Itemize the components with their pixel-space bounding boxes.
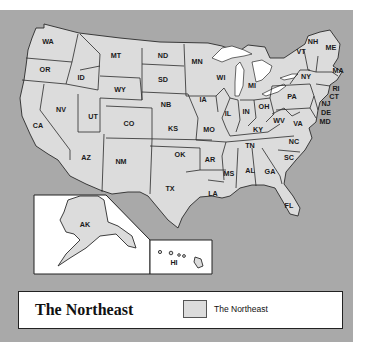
state-label-ks: KS xyxy=(168,124,178,133)
hawaii-inset xyxy=(150,240,212,274)
state-label-ia: IA xyxy=(199,95,206,104)
state-label-va: VA xyxy=(293,119,302,128)
state-label-ct: CT xyxy=(329,92,339,101)
state-label-mo: MO xyxy=(203,125,215,134)
state-label-or: OR xyxy=(40,65,52,74)
state-label-pa: PA xyxy=(287,92,296,101)
state-label-in: IN xyxy=(242,107,249,116)
alaska-inset xyxy=(34,195,150,274)
state-label-la: LA xyxy=(208,189,218,198)
state-label-ca: CA xyxy=(33,121,43,130)
state-label-id: ID xyxy=(77,73,84,82)
state-label-wv: WV xyxy=(273,116,285,125)
state-label-ok: OK xyxy=(175,150,187,159)
legend-title: The Northeast xyxy=(35,301,133,319)
state-label-ak: AK xyxy=(80,220,91,229)
state-label-fl: FL xyxy=(285,201,294,210)
state-label-mi: MI xyxy=(248,81,256,90)
legend: The Northeast The Northeast xyxy=(18,291,343,329)
state-label-hi: HI xyxy=(170,258,177,267)
state-label-tx: TX xyxy=(165,184,174,193)
state-label-az: AZ xyxy=(81,153,91,162)
state-label-ky: KY xyxy=(253,125,263,134)
state-label-ny: NY xyxy=(301,72,311,81)
state-label-al: AL xyxy=(245,166,255,175)
state-label-mn: MN xyxy=(191,57,202,66)
state-label-oh: OH xyxy=(259,102,270,111)
state-label-de: DE xyxy=(321,108,331,117)
state-label-ma: MA xyxy=(332,66,343,75)
state-label-sd: SD xyxy=(158,75,168,84)
state-label-nd: ND xyxy=(158,51,168,60)
state-label-il: IL xyxy=(225,109,232,118)
state-label-me: ME xyxy=(326,43,337,52)
state-label-ga: GA xyxy=(265,167,276,176)
state-label-wa: WA xyxy=(42,37,54,46)
state-label-md: MD xyxy=(319,117,330,126)
state-label-nb: NB xyxy=(161,100,171,109)
legend-swatch xyxy=(183,300,207,318)
legend-item-label: The Northeast xyxy=(214,304,268,314)
state-label-mt: MT xyxy=(111,51,122,60)
state-label-nv: NV xyxy=(56,105,66,114)
state-label-sc: SC xyxy=(284,153,294,162)
state-label-tn: TN xyxy=(245,141,255,150)
state-label-nj: NJ xyxy=(321,99,330,108)
state-label-nm: NM xyxy=(115,157,126,166)
state-label-ut: UT xyxy=(88,112,98,121)
state-label-wy: WY xyxy=(114,85,126,94)
state-label-wi: WI xyxy=(217,73,226,82)
state-label-nh: NH xyxy=(308,37,318,46)
state-label-ms: MS xyxy=(224,169,235,178)
state-label-co: CO xyxy=(124,119,135,128)
state-label-vt: VT xyxy=(296,47,306,56)
state-label-nc: NC xyxy=(289,137,299,146)
state-label-ar: AR xyxy=(205,155,216,164)
